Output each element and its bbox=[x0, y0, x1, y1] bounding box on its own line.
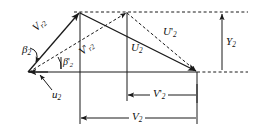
label-u2: U2 bbox=[131, 42, 143, 53]
label-up2: U'2 bbox=[163, 26, 177, 37]
u2-leader bbox=[40, 75, 52, 90]
velocity-triangle-figure: Vr2 V'r2 U2 U'2 β2 β'2 u2 V'2 V2 Y2 bbox=[0, 0, 259, 139]
label-y2: Y2 bbox=[226, 36, 236, 47]
label-vp2: V'2 bbox=[150, 88, 168, 99]
label-u2-small: u2 bbox=[52, 89, 61, 100]
label-beta2: β2 bbox=[22, 44, 31, 55]
label-v2: V2 bbox=[129, 111, 145, 122]
label-beta-prime2: β'2 bbox=[63, 57, 73, 67]
